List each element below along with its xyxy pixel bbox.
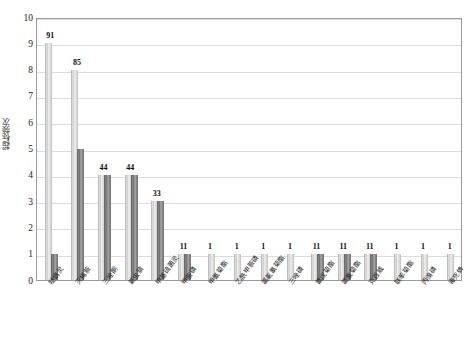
bar-data-label: 11	[303, 243, 330, 251]
bar-group: 91	[37, 19, 64, 280]
bar	[77, 149, 84, 281]
y-tick-label: 6	[3, 119, 33, 128]
y-tick-label: 4	[3, 171, 33, 180]
bar-data-label: 11	[357, 243, 384, 251]
y-tick-label: 0	[3, 277, 33, 286]
bar-data-label: 91	[37, 32, 64, 40]
y-axis-tick-labels: 012345678910	[0, 18, 33, 281]
bar-group: 44	[90, 19, 117, 280]
bar	[104, 175, 111, 280]
bar-data-label: 1	[197, 243, 224, 251]
bar-data-label: 1	[436, 243, 463, 251]
bar-group: 44	[117, 19, 144, 280]
bars-layer: 9185444433111111111111111	[37, 19, 461, 280]
plot-area: 9185444433111111111111111	[36, 18, 462, 281]
y-tick-label: 3	[3, 198, 33, 207]
y-tick-label: 10	[3, 14, 33, 23]
bar-data-label: 11	[170, 243, 197, 251]
bar-chart: 超标频次 012345678910 9185444433111111111111…	[0, 0, 475, 340]
bar-group: 11	[303, 19, 330, 280]
y-tick-label: 5	[3, 145, 33, 154]
bar-group: 1	[277, 19, 304, 280]
bar-group: 1	[410, 19, 437, 280]
bar-group: 1	[197, 19, 224, 280]
bar-data-label: 44	[90, 164, 117, 172]
y-tick-label: 1	[3, 250, 33, 259]
bar-group: 1	[383, 19, 410, 280]
bar-data-label: 33	[144, 190, 171, 198]
bar-data-label: 1	[223, 243, 250, 251]
bar-data-label: 1	[410, 243, 437, 251]
bar-group: 1	[250, 19, 277, 280]
y-tick-label: 2	[3, 224, 33, 233]
bar-group: 11	[170, 19, 197, 280]
bar-data-label: 1	[383, 243, 410, 251]
y-tick-label: 9	[3, 40, 33, 49]
bar	[45, 43, 52, 280]
bar-group: 11	[330, 19, 357, 280]
bar-group: 85	[64, 19, 91, 280]
bar	[131, 175, 138, 280]
bar-group: 33	[144, 19, 171, 280]
bar-data-label: 1	[250, 243, 277, 251]
y-tick-label: 7	[3, 92, 33, 101]
bar-group: 1	[223, 19, 250, 280]
bar-group: 1	[436, 19, 463, 280]
x-axis-category-labels: 哒螨灵灭蝇胺三唑酮氟虫腈甲基硫菌灵甲胺磷甲氰菊酯乙酰甲胺磷氯氟氰菊酯三唑磷氰戊菊…	[36, 282, 462, 340]
bar-data-label: 11	[330, 243, 357, 251]
bar-data-label: 1	[277, 243, 304, 251]
bar-group: 11	[357, 19, 384, 280]
bar-data-label: 44	[117, 164, 144, 172]
y-tick-label: 8	[3, 66, 33, 75]
bar-data-label: 85	[64, 59, 91, 67]
